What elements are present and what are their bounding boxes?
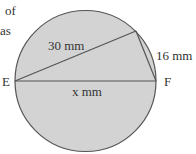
text-fragment-of: of	[5, 4, 16, 17]
label-16mm: 16 mm	[156, 49, 192, 62]
point-e-label: E	[2, 75, 10, 88]
text-fragment-as: as	[0, 24, 11, 37]
label-30mm: 30 mm	[48, 39, 84, 52]
label-x-mm: x mm	[72, 85, 102, 98]
point-f-label: F	[164, 75, 171, 88]
